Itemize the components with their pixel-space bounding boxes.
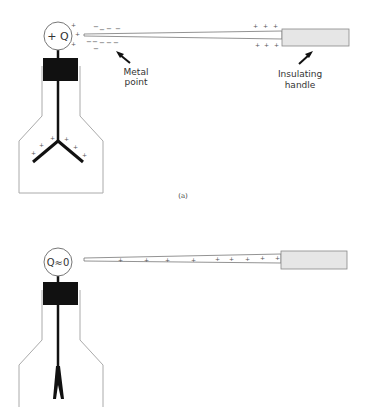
panel-a-caption: (a): [178, 192, 188, 200]
electroscope-leaf-left-a: [33, 141, 58, 162]
electroscope-jar-a: [19, 66, 103, 193]
insulating-stopper-a: [43, 58, 78, 81]
insulating-handle-b: [281, 251, 347, 269]
sphere-charge-plus: +: [75, 30, 80, 37]
positive-charge: +: [255, 41, 260, 48]
panel-b: Q≈0 + + + + + + + + +: [19, 248, 347, 407]
positive-charge: +: [215, 255, 220, 262]
handle-arrow-icon: [299, 51, 313, 64]
positive-charge: +: [229, 255, 234, 262]
sphere-charge-plus: +: [71, 21, 76, 28]
induced-negative-charges: − − − − − − − − − −: [86, 23, 121, 53]
positive-charge: +: [263, 22, 268, 29]
metal-point-label: Metal: [124, 67, 149, 77]
positive-charge: +: [275, 254, 280, 261]
positive-charge: +: [144, 256, 149, 263]
electroscope-diagram: + Q + + + + + + + + + − − − − − − − − − …: [0, 0, 367, 407]
electroscope-leaf-right-a: [58, 141, 83, 162]
metal-point-arrow-icon: [116, 51, 130, 63]
insulating-stopper-b: [43, 282, 78, 305]
positive-charge: +: [191, 256, 196, 263]
negative-charge: −: [99, 39, 105, 47]
leaf-charge-plus: +: [50, 134, 55, 141]
negative-charge: −: [99, 26, 105, 34]
positive-charge: +: [165, 256, 170, 263]
panel-a: + Q + + + + + + + + + − − − − − − − − − …: [19, 21, 349, 200]
negative-charge: −: [93, 45, 99, 53]
metal-point-label: point: [125, 77, 148, 87]
negative-charge: −: [106, 39, 112, 47]
metal-rod-a: [84, 31, 282, 39]
negative-charge: −: [106, 25, 112, 33]
sphere-charge-label-a: + Q: [47, 30, 69, 43]
positive-charge: +: [274, 41, 279, 48]
insulating-handle-label: handle: [285, 80, 316, 90]
electroscope-leaves-b: [53, 366, 64, 399]
positive-charge: +: [264, 41, 269, 48]
leaf-charge-plus: +: [73, 143, 78, 150]
positive-charge: +: [260, 254, 265, 261]
positive-charge: +: [118, 256, 123, 263]
sphere-charge-label-b: Q≈0: [47, 257, 70, 268]
leaf-charge-plus: +: [64, 135, 69, 142]
sphere-charge-plus: +: [71, 40, 76, 47]
negative-charge: −: [115, 25, 121, 33]
negative-charge: −: [113, 39, 119, 47]
positive-charge: +: [253, 22, 258, 29]
insulating-handle-label: Insulating: [278, 69, 322, 79]
leaf-charge-plus: +: [82, 151, 87, 158]
leaf-charge-plus: +: [31, 149, 36, 156]
insulating-handle-a: [282, 29, 349, 46]
metal-rod-b: [84, 254, 281, 263]
leaf-charge-plus: +: [39, 141, 44, 148]
positive-charge: +: [245, 255, 250, 262]
positive-charge: +: [273, 22, 278, 29]
